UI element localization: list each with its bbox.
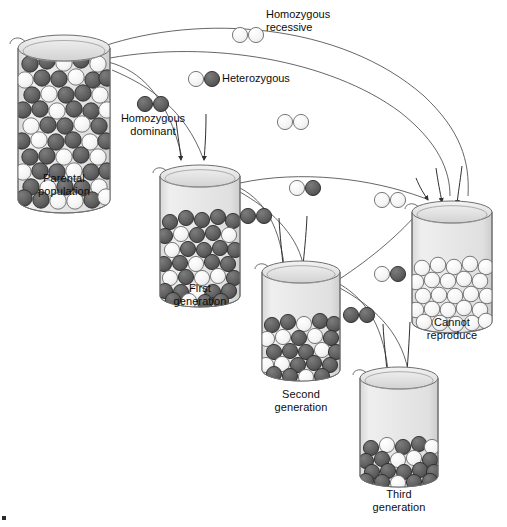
beaker-label-parental-population: Parental population [24,172,104,198]
bead-pair-het-right [374,266,405,281]
bead-pair-hom-dom-left [240,208,271,223]
curve-gen1-to-gen2-b [240,192,303,264]
arrow-into-gen2-b [303,216,307,266]
beaker-third-generation [353,367,442,491]
legend-label-homozygous-recessive: Homozygous recessive [266,8,330,34]
legend-swatch-homozygous-dominant [137,96,168,111]
legend-swatch-heterozygous [188,71,219,86]
arrow-into-cannot-reproduce-c [457,166,462,204]
arrow-into-gen3-a [383,324,387,372]
diagram-canvas: Homozygous recessive Heterozygous Homozy… [0,0,507,527]
beaker-label-second-generation: Second generation [262,388,340,414]
beaker-label-cannot-reproduce: Cannot reproduce [412,316,492,342]
beads-third-generation [358,436,441,490]
curve-gen1-to-gen2-a [236,186,284,264]
curve-gen2-to-gen3-a [336,282,388,370]
legend-label-heterozygous: Heterozygous [222,72,290,85]
beaker-cannot-reproduce [405,201,495,333]
legend-swatch-homozygous-recessive [232,27,263,42]
arrow-into-cannot-reproduce-b [436,168,442,202]
legend-swatches [137,27,263,111]
beaker-label-third-generation: Third generation [360,488,438,514]
beaker-second-generation [255,261,344,385]
legend-label-homozygous-dominant: Homozygous dominant [103,112,203,138]
corner-mark [2,516,6,520]
arrow-into-gen3-b [407,322,410,372]
bead-pair-hom-rec-mid [277,114,308,129]
arrow-into-cannot-reproduce-a [416,178,428,200]
bead-pair-het-mid [289,180,320,195]
beaker-label-first-generation: First generation [160,282,240,308]
bead-pair-hom-rec-right [374,192,405,207]
bead-pair-hom-dom-mid [343,307,374,322]
curve-gen2-to-gen3-b [340,288,408,370]
arrow-into-gen1-b [204,114,206,160]
